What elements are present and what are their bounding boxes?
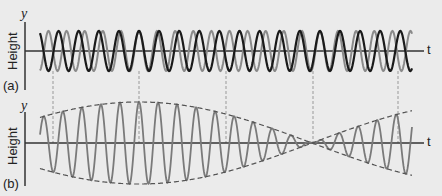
beat-diagram: y Height (a) t y Height (b) t [0, 0, 442, 196]
panel-a-y-label: y [21, 6, 27, 22]
panel-a-height-title: Height [5, 32, 20, 70]
panel-a-label: (a) [3, 78, 19, 93]
panel-b-t-label: t [427, 134, 431, 149]
panel-b-label: (b) [3, 176, 19, 191]
panel-a-t-label: t [427, 42, 431, 57]
wave-figure [0, 0, 442, 196]
panel-b-y-label: y [21, 98, 27, 114]
panel-b-height-title: Height [5, 127, 20, 165]
